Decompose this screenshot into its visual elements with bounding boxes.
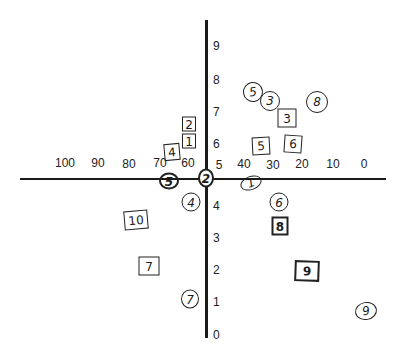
box-marker-1: 1 bbox=[182, 134, 196, 149]
circle-marker-9: 9 bbox=[354, 300, 379, 322]
circle-marker-2-bold: 2 bbox=[198, 169, 214, 188]
circle-marker-5-bold: 5 bbox=[159, 173, 179, 190]
y-tick-label: 7 bbox=[213, 106, 220, 118]
x-tick-label: 0 bbox=[361, 158, 368, 170]
box-marker-3: 3 bbox=[278, 109, 297, 128]
y-tick-label: 6 bbox=[213, 138, 220, 150]
y-tick-label: 3 bbox=[213, 232, 220, 244]
x-tick-label: 20 bbox=[295, 158, 308, 170]
y-tick-label: 1 bbox=[213, 296, 220, 308]
box-marker-5: 5 bbox=[252, 137, 271, 156]
x-tick-label: 10 bbox=[326, 158, 339, 170]
x-tick-label: 90 bbox=[91, 157, 104, 169]
circle-marker-6: 6 bbox=[270, 193, 289, 212]
circle-marker-7: 7 bbox=[181, 290, 199, 309]
x-tick-label: 100 bbox=[55, 157, 75, 169]
circle-marker-4: 4 bbox=[182, 193, 201, 212]
x-tick-label: 40 bbox=[237, 158, 250, 170]
y-tick-label: 2 bbox=[213, 264, 220, 276]
circle-marker-8: 8 bbox=[306, 91, 328, 113]
x-tick-label: 80 bbox=[122, 158, 135, 170]
box-marker-4: 4 bbox=[163, 143, 180, 161]
box-marker-8: 8 bbox=[272, 217, 289, 236]
scatter-diagram: 100 90 80 70 60 5 40 30 20 10 0 9 8 7 6 … bbox=[0, 0, 404, 362]
y-tick-label: 0 bbox=[213, 329, 220, 341]
box-marker-10: 10 bbox=[123, 209, 149, 230]
box-marker-6: 6 bbox=[283, 134, 302, 153]
x-tick-label: 60 bbox=[181, 157, 194, 169]
x-tick-label: 30 bbox=[266, 159, 279, 171]
circle-marker-1: 1 bbox=[238, 173, 263, 194]
box-marker-2: 2 bbox=[182, 117, 196, 132]
y-tick-label: 9 bbox=[213, 40, 220, 52]
box-marker-7: 7 bbox=[139, 257, 160, 276]
box-marker-9: 9 bbox=[294, 260, 320, 282]
y-tick-label: 8 bbox=[213, 74, 220, 86]
x-tick-label: 5 bbox=[216, 159, 223, 171]
y-tick-label: 4 bbox=[213, 200, 220, 212]
